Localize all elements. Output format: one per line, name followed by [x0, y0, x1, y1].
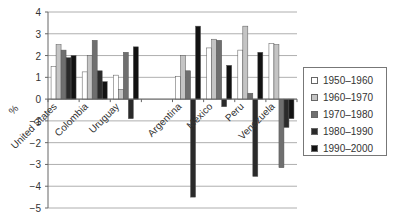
- bar: [56, 45, 61, 99]
- bar: [186, 71, 191, 99]
- legend-label: 1980–1990: [323, 126, 373, 137]
- y-tick-label: 1: [35, 72, 41, 83]
- legend-label: 1970–1980: [323, 109, 373, 120]
- y-tick-label: −2: [30, 138, 42, 149]
- y-tick-label: −4: [30, 181, 42, 192]
- bar: [66, 58, 71, 99]
- bar: [113, 75, 118, 99]
- bar: [97, 71, 102, 99]
- y-tick-label: −5: [30, 203, 42, 214]
- bar: [51, 66, 56, 99]
- bar: [269, 44, 274, 100]
- bar: [212, 39, 217, 99]
- bar: [92, 40, 97, 99]
- legend-swatch-icon: [311, 145, 318, 152]
- bar: [196, 26, 201, 99]
- legend-label: 1960–1970: [323, 92, 373, 103]
- bar: [71, 56, 76, 100]
- bar: [289, 99, 294, 119]
- bar: [123, 52, 128, 99]
- bar: [243, 26, 248, 99]
- legend-label: 1990–2000: [323, 143, 373, 154]
- y-tick-label: 4: [35, 7, 41, 18]
- bar: [227, 65, 232, 99]
- bar: [82, 72, 87, 99]
- x-category-label: Uruguay: [87, 101, 122, 136]
- legend-item: 1960–1970: [311, 89, 386, 106]
- bar: [284, 99, 289, 127]
- legend-item: 1990–2000: [311, 140, 386, 157]
- bar: [258, 52, 263, 99]
- legend: 1950–19601960–19701970–19801980–19901990…: [303, 67, 387, 156]
- bar: [133, 47, 138, 99]
- x-category-label: Argentina: [145, 100, 183, 138]
- bar: [238, 50, 243, 99]
- legend-item: 1950–1960: [311, 72, 386, 89]
- bar: [207, 48, 212, 99]
- bar: [61, 50, 66, 99]
- legend-swatch-icon: [311, 111, 318, 118]
- bar: [279, 99, 284, 168]
- bar: [253, 99, 258, 176]
- bar: [222, 99, 227, 107]
- bar: [118, 89, 123, 99]
- legend-swatch-icon: [311, 94, 318, 101]
- legend-item: 1980–1990: [311, 123, 386, 140]
- y-tick-label: 0: [35, 94, 41, 105]
- y-tick-label: −3: [30, 159, 42, 170]
- bar: [176, 76, 181, 99]
- bar: [217, 40, 222, 99]
- x-category-label: Colombia: [52, 100, 90, 138]
- bar: [128, 99, 133, 119]
- bar: [102, 82, 107, 99]
- legend-swatch-icon: [311, 77, 318, 84]
- y-tick-label: 3: [35, 29, 41, 40]
- bar: [248, 93, 253, 99]
- legend-swatch-icon: [311, 128, 318, 135]
- legend-label: 1950–1960: [323, 75, 373, 86]
- bar: [87, 56, 92, 100]
- y-tick-label: 2: [35, 51, 41, 62]
- legend-item: 1970–1980: [311, 106, 386, 123]
- y-axis-label: %: [6, 102, 20, 116]
- bar: [274, 45, 279, 99]
- x-axis-labels: United StatesColombiaUruguayArgentinaMex…: [9, 100, 277, 151]
- x-category-label: Mexico: [184, 100, 214, 130]
- bar: [181, 56, 186, 100]
